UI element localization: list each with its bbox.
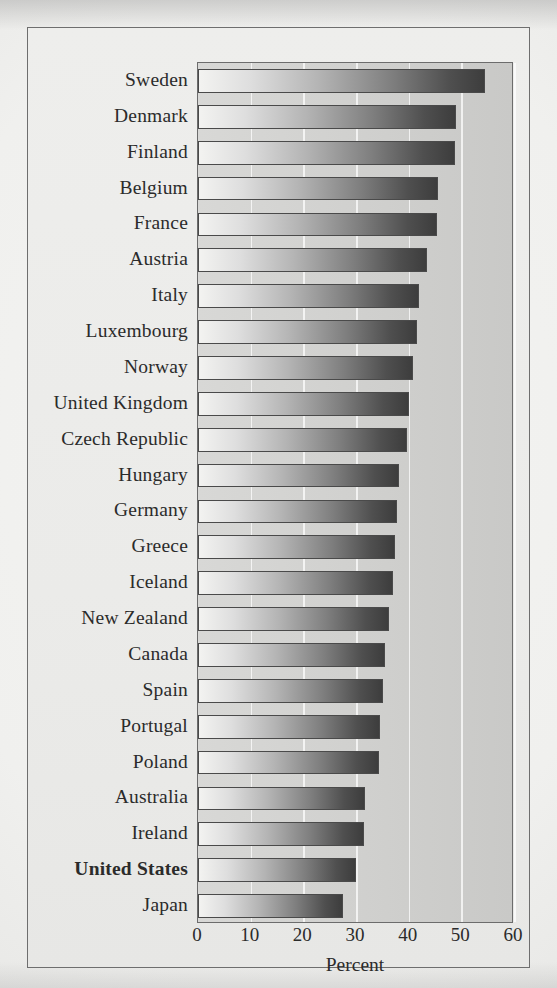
figure-frame: SwedenDenmarkFinlandBelgiumFranceAustria… [27, 27, 530, 968]
category-label-iceland: Iceland [129, 572, 188, 592]
category-label-canada: Canada [128, 644, 188, 664]
bar-italy [198, 284, 419, 308]
x-tick-60: 60 [504, 925, 523, 944]
bar-row [198, 751, 512, 775]
category-label-united-states: United States [74, 859, 188, 879]
scan-shadow-top [0, 0, 557, 30]
category-label-belgium: Belgium [119, 178, 188, 198]
bar-iceland [198, 571, 393, 595]
category-label-italy: Italy [151, 285, 188, 305]
category-label-japan: Japan [143, 895, 188, 915]
bar-new-zealand [198, 607, 389, 631]
bar-hungary [198, 464, 399, 488]
bar-row [198, 248, 512, 272]
bar-canada [198, 643, 385, 667]
bar-germany [198, 500, 397, 524]
bar-denmark [198, 105, 456, 129]
bar-row [198, 643, 512, 667]
category-label-portugal: Portugal [120, 716, 188, 736]
bar-row [198, 141, 512, 165]
category-label-czech-republic: Czech Republic [61, 429, 188, 449]
x-tick-50: 50 [451, 925, 470, 944]
bar-sweden [198, 69, 485, 93]
x-tick-10: 10 [240, 925, 259, 944]
category-label-france: France [134, 213, 188, 233]
bar-row [198, 177, 512, 201]
bar-ireland [198, 822, 364, 846]
bar-row [198, 822, 512, 846]
bar-poland [198, 751, 379, 775]
x-tick-30: 30 [346, 925, 365, 944]
category-label-norway: Norway [124, 357, 188, 377]
bar-row [198, 356, 512, 380]
category-label-finland: Finland [127, 142, 188, 162]
x-axis-title: Percent [197, 954, 513, 976]
category-label-luxembourg: Luxembourg [86, 321, 188, 341]
category-label-denmark: Denmark [114, 106, 188, 126]
category-label-austria: Austria [129, 249, 188, 269]
bar-austria [198, 248, 427, 272]
bar-row [198, 571, 512, 595]
x-axis-tick-labels: 0102030405060 [197, 923, 513, 953]
bar-row [198, 535, 512, 559]
bar-row [198, 500, 512, 524]
category-label-greece: Greece [132, 536, 188, 556]
x-tick-20: 20 [293, 925, 312, 944]
bar-row [198, 679, 512, 703]
bar-spain [198, 679, 383, 703]
category-label-united-kingdom: United Kingdom [54, 393, 188, 413]
category-axis-labels: SwedenDenmarkFinlandBelgiumFranceAustria… [28, 62, 188, 923]
category-label-germany: Germany [114, 500, 188, 520]
category-label-sweden: Sweden [125, 70, 188, 90]
bar-row [198, 894, 512, 918]
bar-luxembourg [198, 320, 417, 344]
bar-row [198, 858, 512, 882]
bar-row [198, 69, 512, 93]
bar-row [198, 284, 512, 308]
bar-greece [198, 535, 395, 559]
bar-row [198, 787, 512, 811]
category-label-spain: Spain [143, 680, 188, 700]
category-label-ireland: Ireland [131, 823, 188, 843]
bar-united-states [198, 858, 356, 882]
bar-row [198, 428, 512, 452]
x-tick-0: 0 [192, 925, 202, 944]
gridline-60 [514, 63, 516, 922]
bar-australia [198, 787, 365, 811]
category-label-poland: Poland [133, 752, 188, 772]
category-label-hungary: Hungary [118, 465, 188, 485]
bar-czech-republic [198, 428, 407, 452]
plot-area [197, 62, 513, 923]
bar-row [198, 213, 512, 237]
bar-norway [198, 356, 413, 380]
bar-finland [198, 141, 455, 165]
bar-japan [198, 894, 343, 918]
bar-row [198, 392, 512, 416]
bar-row [198, 320, 512, 344]
bar-france [198, 213, 437, 237]
bar-row [198, 105, 512, 129]
x-tick-40: 40 [398, 925, 417, 944]
bar-portugal [198, 715, 380, 739]
bar-united-kingdom [198, 392, 409, 416]
bar-row [198, 464, 512, 488]
category-label-australia: Australia [115, 787, 188, 807]
category-label-new-zealand: New Zealand [81, 608, 188, 628]
bars-container [198, 63, 512, 922]
page-background: SwedenDenmarkFinlandBelgiumFranceAustria… [0, 0, 557, 988]
bar-row [198, 607, 512, 631]
bar-row [198, 715, 512, 739]
bar-belgium [198, 177, 438, 201]
